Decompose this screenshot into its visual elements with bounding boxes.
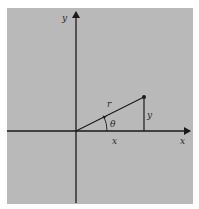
opposite-side-label: y	[146, 110, 153, 120]
adjacent-side-label: x	[112, 136, 117, 146]
angle-label: θ	[110, 119, 116, 129]
polar-coordinate-diagram: y x r θ y x	[0, 0, 199, 209]
x-axis-label: x	[180, 136, 185, 146]
diagram-panel	[7, 8, 193, 204]
radius-label: r	[107, 99, 112, 109]
y-axis-label: y	[61, 13, 68, 23]
point-marker	[142, 95, 146, 99]
